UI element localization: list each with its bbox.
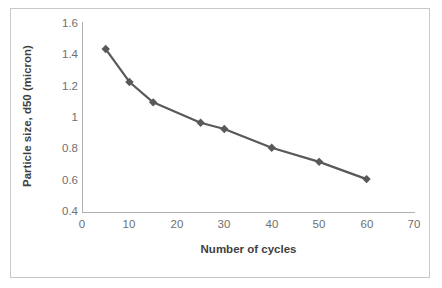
chart-figure: 1.6 1.4 1.2 1 0.8 0.6 0.4 0 10 20 30 40 … — [0, 0, 442, 288]
series-line — [106, 49, 367, 179]
data-point-marker — [362, 175, 370, 183]
series-markers — [102, 45, 371, 183]
data-point-marker — [315, 158, 323, 166]
data-point-marker — [268, 144, 276, 152]
data-point-marker — [220, 125, 228, 133]
chart-plot — [0, 0, 442, 288]
data-point-marker — [196, 119, 204, 127]
